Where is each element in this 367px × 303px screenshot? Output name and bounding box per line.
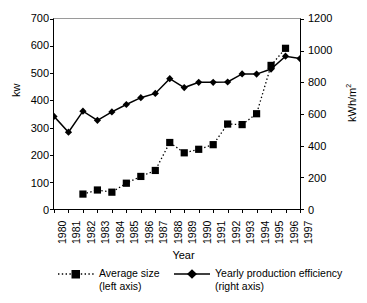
chart-figure: 700 600 500 400 300 200 100 0 1200 1000 … (0, 0, 367, 303)
x-axis-tick (213, 209, 214, 213)
y-axis-right-tick (300, 177, 304, 178)
data-point-square (210, 141, 217, 148)
x-axis-tick (242, 209, 243, 213)
y-axis-left-tick (50, 46, 54, 47)
x-axis-tick (184, 209, 185, 213)
x-axis-tick-label: 1990 (202, 221, 213, 244)
x-axis-tick-label: 1985 (129, 221, 140, 244)
data-point-diamond (108, 108, 115, 115)
y-axis-left-tick (50, 73, 54, 74)
y-axis-right-tick-label: 1200 (308, 13, 350, 24)
y-axis-right-tick (300, 82, 304, 83)
data-point-square (282, 45, 289, 52)
y-axis-left-tick-label: 100 (9, 178, 49, 189)
data-point-square (181, 149, 188, 156)
data-point-square (94, 186, 101, 193)
y-axis-left-tick-label: 600 (9, 40, 49, 51)
x-axis-tick-label: 1995 (274, 221, 285, 244)
data-point-square (79, 190, 86, 197)
x-axis-tick-label: 1992 (231, 221, 242, 244)
x-axis-tick (126, 209, 127, 213)
legend-marker-square-dotted (57, 268, 95, 280)
x-axis-tick (54, 209, 55, 213)
y-axis-right-title-exponent: 2 (345, 84, 352, 88)
x-axis-tick-label: 1980 (57, 221, 68, 244)
data-point-diamond (195, 79, 202, 86)
x-axis-tick-label: 1982 (86, 221, 97, 244)
x-axis-tick-label: 1983 (100, 221, 111, 244)
data-point-square (224, 120, 231, 127)
y-axis-right-title-text: kWh/m (346, 88, 358, 122)
data-point-diamond (224, 78, 231, 85)
data-point-square (152, 167, 159, 174)
y-axis-left-tick-label: 500 (9, 68, 49, 79)
plot-area (53, 18, 301, 210)
x-axis-tick-label: 1986 (144, 221, 155, 244)
x-axis-title: Year (0, 249, 367, 261)
legend-marker-diamond-solid (173, 268, 211, 280)
y-axis-left-tick (50, 155, 54, 156)
x-axis-tick-label: 1996 (289, 221, 300, 244)
y-axis-left-tick-label: 700 (9, 13, 49, 24)
data-point-diamond (296, 55, 300, 62)
data-point-diamond (181, 84, 188, 91)
data-point-diamond (94, 117, 101, 124)
y-axis-right-tick-label: 0 (308, 205, 350, 216)
x-axis-tick (170, 209, 171, 213)
x-axis-tick-label: 1981 (71, 221, 82, 244)
y-axis-left-tick (50, 100, 54, 101)
series-line-square (83, 48, 286, 194)
x-axis-tick (155, 209, 156, 213)
data-point-square (239, 121, 246, 128)
data-point-square (253, 110, 260, 117)
data-point-square (195, 146, 202, 153)
y-axis-right-tick-label: 1000 (308, 45, 350, 56)
x-axis-tick-label: 1994 (260, 221, 271, 244)
x-axis-tick (300, 209, 301, 213)
x-axis-tick-label: 1984 (115, 221, 126, 244)
y-axis-right-title: kWh/m2 (345, 84, 358, 122)
x-axis-tick (112, 209, 113, 213)
data-point-diamond (137, 94, 144, 101)
x-axis-tick (257, 209, 258, 213)
x-axis-tick-label: 1987 (158, 221, 169, 244)
data-point-diamond (210, 79, 217, 86)
legend-axis-note-average-size: (left axis) (99, 280, 160, 293)
x-axis-tick (271, 209, 272, 213)
x-axis-tick-label: 1997 (303, 221, 314, 244)
y-axis-right-tick (300, 51, 304, 52)
x-axis-tick (286, 209, 287, 213)
y-axis-left-tick-label: 300 (9, 123, 49, 134)
x-axis-tick (97, 209, 98, 213)
y-axis-left-tick (50, 182, 54, 183)
x-axis-tick (199, 209, 200, 213)
x-axis-tick-label: 1993 (245, 221, 256, 244)
data-point-diamond (253, 71, 260, 78)
y-axis-left-tick (50, 19, 54, 20)
y-axis-left-tick (50, 128, 54, 129)
y-axis-right-tick (300, 146, 304, 147)
legend-label-yearly-production-efficiency: Yearly production efficiency (215, 267, 342, 280)
x-axis-tick (68, 209, 69, 213)
data-point-diamond (239, 70, 246, 77)
data-point-square (166, 139, 173, 146)
y-axis-right-tick (300, 114, 304, 115)
x-axis-tick (141, 209, 142, 213)
data-point-diamond (123, 101, 130, 108)
data-point-square (137, 173, 144, 180)
x-axis-tick (228, 209, 229, 213)
x-axis-tick (83, 209, 84, 213)
y-axis-left-title: kw (10, 84, 22, 97)
y-axis-right-tick-label: 600 (308, 109, 350, 120)
x-axis-tick-label: 1989 (187, 221, 198, 244)
legend-label-average-size: Average size (99, 267, 160, 280)
data-point-square (108, 189, 115, 196)
legend-axis-note-yearly-production-efficiency: (right axis) (215, 280, 342, 293)
x-axis-tick-label: 1988 (173, 221, 184, 244)
y-axis-right-tick-label: 400 (308, 141, 350, 152)
y-axis-right-tick (300, 19, 304, 20)
data-point-square (123, 180, 130, 187)
y-axis-right-tick-label: 800 (308, 77, 350, 88)
x-axis-tick-label: 1991 (216, 221, 227, 244)
y-axis-right-tick-label: 200 (308, 173, 350, 184)
